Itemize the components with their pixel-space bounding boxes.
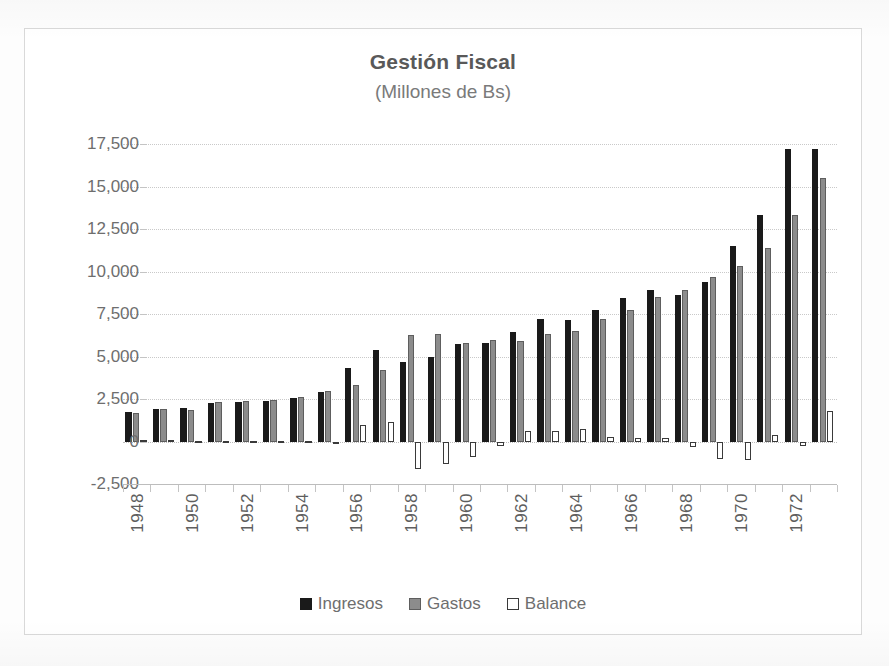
y-axis-tick: [140, 314, 147, 315]
bar-group: [647, 144, 670, 484]
bar-gastos-1962: [517, 341, 523, 441]
chart-subtitle: (Millones de Bs): [25, 81, 861, 103]
x-axis-tick: [645, 485, 646, 492]
bar-ingresos-1954: [290, 398, 296, 441]
x-axis-tick: [837, 485, 838, 492]
bar-gastos-1965: [600, 319, 606, 441]
x-axis-tick: [260, 485, 261, 492]
legend-label: Ingresos: [318, 594, 383, 614]
legend-swatch-ingresos: [300, 598, 312, 610]
legend-item-ingresos[interactable]: Ingresos: [300, 594, 383, 614]
bar-balance-1966: [635, 438, 641, 441]
y-axis-tick: [140, 187, 147, 188]
bar-gastos-1970: [737, 266, 743, 442]
x-axis-tick-label: 1952: [238, 493, 258, 533]
legend-swatch-balance: [507, 598, 519, 610]
bar-gastos-1949: [160, 409, 166, 441]
x-axis-tick: [288, 485, 289, 492]
x-axis-tick-label: 1972: [787, 493, 807, 533]
y-axis-tick-label: 17,500: [29, 134, 139, 154]
x-axis-tick: [535, 485, 536, 492]
bar-group: [180, 144, 203, 484]
y-axis-tick: [140, 144, 147, 145]
y-axis-tick: [140, 357, 147, 358]
bar-ingresos-1962: [510, 332, 516, 442]
bar-balance-1962: [525, 431, 531, 441]
legend-label: Gastos: [427, 594, 481, 614]
bar-group: [812, 144, 835, 484]
x-axis-tick: [123, 485, 124, 492]
bar-gastos-1971: [765, 248, 771, 442]
bar-ingresos-1963: [537, 319, 543, 441]
x-axis-tick-label: 1954: [293, 493, 313, 533]
chart-frame: Gestión Fiscal (Millones de Bs) 17,50015…: [24, 28, 862, 635]
bar-balance-1950: [195, 441, 201, 443]
bar-balance-1969: [717, 442, 723, 459]
x-axis-tick: [343, 485, 344, 492]
x-axis-tick-label: 1960: [457, 493, 477, 533]
bar-ingresos-1968: [675, 295, 681, 441]
bar-ingresos-1949: [153, 409, 159, 441]
bar-group: [153, 144, 176, 484]
x-axis-tick: [672, 485, 673, 492]
bar-gastos-1968: [682, 290, 688, 441]
bar-series-container: [123, 144, 837, 484]
legend-item-gastos[interactable]: Gastos: [409, 594, 481, 614]
x-axis-tick-label: 1950: [183, 493, 203, 533]
x-axis-tick: [810, 485, 811, 492]
bar-balance-1957: [388, 422, 394, 442]
x-axis-tick: [727, 485, 728, 492]
legend-label: Balance: [525, 594, 586, 614]
y-axis-tick: [140, 229, 147, 230]
bar-group: [345, 144, 368, 484]
x-axis-tick: [562, 485, 563, 492]
x-axis-tick-label: 1958: [402, 493, 422, 533]
bar-balance-1973: [827, 411, 833, 442]
x-axis-tick-label: 1966: [622, 493, 642, 533]
bar-balance-1972: [800, 442, 806, 446]
bar-ingresos-1959: [428, 357, 434, 441]
bar-group: [702, 144, 725, 484]
x-axis-tick: [480, 485, 481, 492]
bar-ingresos-1964: [565, 320, 571, 442]
x-axis-tick: [453, 485, 454, 492]
bar-gastos-1959: [435, 334, 441, 441]
bar-gastos-1950: [188, 410, 194, 441]
bar-ingresos-1966: [620, 298, 626, 442]
bar-balance-1955: [333, 442, 339, 444]
y-axis-tick-label: 10,000: [29, 262, 139, 282]
bar-ingresos-1965: [592, 310, 598, 442]
y-axis-tick: [140, 442, 147, 443]
bar-balance-1954: [305, 441, 311, 443]
bar-gastos-1952: [243, 401, 249, 442]
y-axis-tick-label: 0: [29, 432, 139, 452]
x-axis-tick: [205, 485, 206, 492]
bar-gastos-1973: [820, 178, 826, 442]
bar-group: [730, 144, 753, 484]
bar-ingresos-1958: [400, 362, 406, 442]
x-axis-tick-label: 1964: [567, 493, 587, 533]
bar-ingresos-1972: [785, 149, 791, 441]
bar-balance-1961: [497, 442, 503, 446]
legend-item-balance[interactable]: Balance: [507, 594, 586, 614]
bar-ingresos-1971: [757, 215, 763, 441]
bar-gastos-1964: [572, 331, 578, 442]
x-axis-tick: [700, 485, 701, 492]
y-axis-tick: [140, 399, 147, 400]
x-axis-tick: [425, 485, 426, 492]
y-axis-tick-label: 7,500: [29, 304, 139, 324]
x-axis-tick: [315, 485, 316, 492]
bar-balance-1970: [745, 442, 751, 461]
chart-page: Gestión Fiscal (Millones de Bs) 17,50015…: [0, 0, 889, 666]
bar-group: [565, 144, 588, 484]
x-axis-tick: [590, 485, 591, 492]
bar-balance-1953: [278, 441, 284, 443]
bar-group: [373, 144, 396, 484]
bar-group: [318, 144, 341, 484]
bar-balance-1964: [580, 429, 586, 442]
bar-ingresos-1957: [373, 350, 379, 442]
bar-group: [537, 144, 560, 484]
x-axis-tick: [782, 485, 783, 492]
bar-balance-1965: [607, 437, 613, 441]
bar-group: [235, 144, 258, 484]
